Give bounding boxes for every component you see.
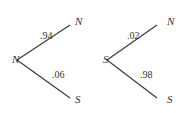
node-left-lower: S: [75, 94, 81, 105]
probability-right-lower: .98: [140, 70, 153, 80]
node-root-left: N: [12, 54, 19, 65]
probability-left-upper: .94: [40, 31, 53, 41]
node-right-upper: N: [167, 16, 174, 27]
node-root-right: S: [103, 54, 109, 65]
probability-left-lower: .06: [52, 70, 65, 80]
tree-lines: [0, 0, 182, 113]
node-left-upper: N: [75, 16, 82, 27]
probability-right-upper: .02: [127, 31, 140, 41]
node-right-lower: S: [167, 94, 173, 105]
